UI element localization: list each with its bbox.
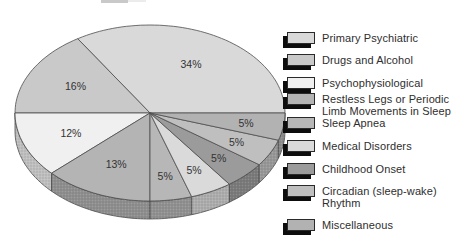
- legend-label: Psychophysiological: [322, 78, 452, 90]
- legend-label: Sleep Apnea: [322, 118, 452, 130]
- legend-swatch: [287, 185, 315, 197]
- legend: Primary PsychiatricDrugs and AlcoholPsyc…: [0, 0, 452, 238]
- legend-label: Medical Disorders: [322, 141, 452, 153]
- figure: 34%16%12%13%5%5%5%5%5% Primary Psychiatr…: [0, 0, 452, 238]
- legend-label: Primary Psychiatric: [322, 33, 452, 45]
- legend-swatch: [287, 117, 315, 129]
- legend-swatch: [287, 54, 315, 66]
- legend-label: Childhood Onset: [322, 164, 452, 176]
- legend-swatch: [287, 77, 315, 89]
- legend-swatch: [287, 93, 315, 105]
- legend-label: Drugs and Alcohol: [322, 55, 452, 67]
- legend-label: Miscellaneous: [322, 220, 452, 232]
- legend-swatch: [287, 163, 315, 175]
- legend-label: Restless Legs or Periodic Limb Movements…: [322, 94, 452, 117]
- legend-label: Circadian (sleep-wake) Rhythm: [322, 186, 452, 209]
- legend-swatch: [287, 219, 315, 231]
- legend-swatch: [287, 140, 315, 152]
- legend-swatch: [287, 32, 315, 44]
